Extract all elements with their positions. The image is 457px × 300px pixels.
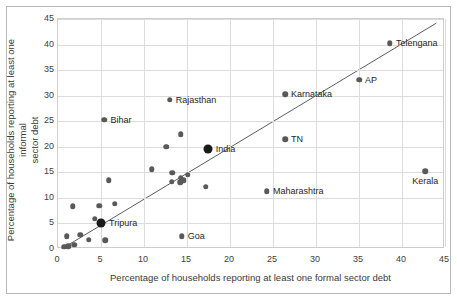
data-point bbox=[64, 233, 70, 239]
point-label: Tripura bbox=[109, 218, 137, 228]
data-point bbox=[112, 201, 118, 207]
trendline bbox=[58, 19, 445, 249]
gridline-horizontal bbox=[58, 147, 443, 148]
data-point bbox=[97, 203, 103, 209]
x-axis-ticks: 051015202530354045 bbox=[57, 254, 444, 268]
gridline-vertical bbox=[230, 19, 231, 247]
data-point bbox=[170, 170, 176, 176]
gridline-vertical bbox=[187, 19, 188, 247]
data-point bbox=[106, 177, 112, 183]
gridline-vertical bbox=[273, 19, 274, 247]
x-axis-tick-label: 45 bbox=[429, 254, 457, 264]
gridline-vertical bbox=[144, 19, 145, 247]
gridline-horizontal bbox=[58, 172, 443, 173]
gridline-vertical bbox=[359, 19, 360, 247]
x-axis-tick-label: 5 bbox=[85, 254, 115, 264]
data-point-highlight bbox=[97, 219, 106, 228]
x-axis-tick-label: 40 bbox=[386, 254, 416, 264]
gridline-vertical bbox=[101, 19, 102, 247]
point-label: Goa bbox=[188, 231, 205, 241]
x-axis-tick-label: 0 bbox=[42, 254, 72, 264]
gridline-vertical bbox=[316, 19, 317, 247]
x-axis-tick-label: 20 bbox=[214, 254, 244, 264]
data-point bbox=[422, 169, 428, 175]
point-label: Kerala bbox=[412, 176, 438, 186]
gridline-horizontal bbox=[58, 19, 443, 20]
data-point bbox=[282, 136, 288, 142]
data-point bbox=[185, 172, 191, 178]
x-axis-tick-label: 35 bbox=[343, 254, 373, 264]
gridline-vertical bbox=[445, 19, 446, 247]
gridline-vertical bbox=[402, 19, 403, 247]
x-axis-tick-label: 15 bbox=[171, 254, 201, 264]
data-point bbox=[264, 188, 270, 194]
data-point bbox=[169, 179, 175, 185]
point-label: Maharashtra bbox=[273, 186, 324, 196]
data-point bbox=[61, 244, 67, 250]
x-axis-title: Percentage of households reporting at le… bbox=[57, 272, 444, 283]
x-axis-tick-label: 25 bbox=[257, 254, 287, 264]
data-point-highlight bbox=[203, 145, 212, 154]
data-point bbox=[179, 233, 185, 239]
point-label: Telengana bbox=[396, 38, 438, 48]
data-point bbox=[203, 184, 209, 190]
data-point bbox=[178, 131, 184, 137]
y-axis-title-line1: Percentage of households reporting at le… bbox=[5, 39, 28, 241]
data-point bbox=[72, 242, 78, 248]
data-point bbox=[177, 179, 183, 185]
data-point bbox=[387, 40, 393, 46]
y-axis-tick-label: 45 bbox=[18, 14, 54, 23]
point-label: Bihar bbox=[110, 115, 131, 125]
data-point bbox=[86, 237, 92, 243]
plot-area: RajasthanBiharTelenganaAPKarnatakaTNIndi… bbox=[57, 18, 444, 248]
point-label: Rajasthan bbox=[176, 95, 217, 105]
data-point bbox=[78, 232, 84, 238]
data-point bbox=[282, 91, 288, 97]
point-label: AP bbox=[365, 75, 377, 85]
data-point bbox=[356, 77, 362, 83]
gridline-horizontal bbox=[58, 96, 443, 97]
point-label: India bbox=[216, 144, 236, 154]
y-axis-title: Percentage of households reporting at le… bbox=[5, 25, 41, 255]
scatter-plot-figure: RajasthanBiharTelenganaAPKarnatakaTNIndi… bbox=[0, 0, 457, 300]
point-label: TN bbox=[291, 134, 303, 144]
y-axis-title-line2: sector debt bbox=[29, 25, 41, 255]
x-axis-tick-label: 30 bbox=[300, 254, 330, 264]
data-point bbox=[167, 97, 173, 103]
gridline-horizontal bbox=[58, 70, 443, 71]
gridline-horizontal bbox=[58, 198, 443, 199]
point-label: Karnataka bbox=[291, 89, 332, 99]
data-point bbox=[70, 203, 76, 209]
data-point bbox=[103, 238, 109, 244]
data-point bbox=[149, 167, 155, 173]
data-point bbox=[164, 144, 170, 150]
gridline-horizontal bbox=[58, 45, 443, 46]
data-point bbox=[102, 117, 108, 123]
x-axis-tick-label: 10 bbox=[128, 254, 158, 264]
